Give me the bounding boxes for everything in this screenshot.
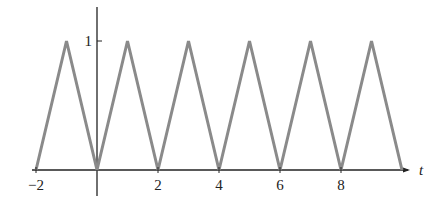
y-tick-label: 1 xyxy=(85,33,93,49)
x-axis-arrow-icon xyxy=(403,168,410,173)
x-tick-label: 8 xyxy=(337,177,345,193)
x-axis-label: t xyxy=(419,162,424,178)
triangle-wave-chart: −224681t xyxy=(0,0,441,200)
x-tick-label: −2 xyxy=(28,177,44,193)
plot-area: −224681t xyxy=(0,0,441,200)
x-tick-label: 2 xyxy=(154,177,162,193)
x-tick-label: 6 xyxy=(276,177,284,193)
triangle-wave-line xyxy=(36,41,402,170)
x-tick-label: 4 xyxy=(215,177,223,193)
